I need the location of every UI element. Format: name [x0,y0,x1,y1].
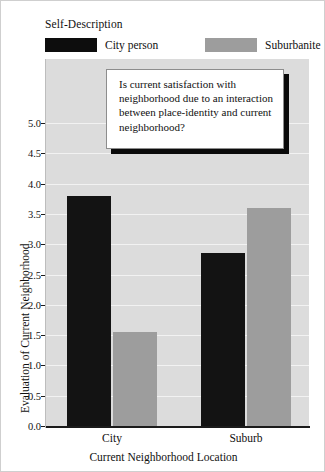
x-axis-line [46,426,310,428]
y-axis-tick-mark [41,335,45,336]
legend-label-city-person: City person [105,37,158,53]
x-axis-label: Current Neighborhood Location [1,451,325,463]
y-axis-tick-mark [41,426,45,427]
bar-suburb-suburbanite [247,208,291,426]
callout-text: Is current satisfaction with neighborhoo… [119,77,275,134]
y-axis-tick-label: 4.5 [7,148,41,159]
chart-page: Self-Description City person Suburbanite… [0,0,325,472]
chart-legend: City person Suburbanite [45,37,307,54]
y-axis-tick-label: 3.5 [7,208,41,219]
y-axis-tick-mark [41,305,45,306]
y-axis-tick-mark [41,275,45,276]
y-axis-tick-label: 4.0 [7,178,41,189]
legend-swatch-suburbanite [205,38,257,52]
y-axis-tick-mark [41,184,45,185]
y-axis-tick-mark [41,123,45,124]
callout-box: Is current satisfaction with neighborhoo… [106,69,284,149]
x-axis-tick-label-suburb: Suburb [181,432,311,444]
legend-title: Self-Description [45,18,123,30]
y-axis-tick-mark [41,396,45,397]
y-axis-tick-mark [41,153,45,154]
y-axis-line [45,59,46,428]
x-axis-tick-label-city: City [47,432,177,444]
bar-city-suburbanite [113,332,157,426]
bar-city-city-person [67,196,111,426]
y-axis-label: Evaluation of Current Neighborhood [19,243,31,413]
legend-label-suburbanite: Suburbanite [265,37,321,53]
gridline [46,184,309,185]
bar-suburb-city-person [201,253,245,426]
y-axis-tick-mark [41,244,45,245]
y-axis-tick-mark [41,214,45,215]
legend-swatch-city-person [45,38,97,52]
y-axis-tick-mark [41,365,45,366]
y-axis-tick-label: 5.0 [7,118,41,129]
y-axis-tick-label: 0.0 [7,421,41,432]
